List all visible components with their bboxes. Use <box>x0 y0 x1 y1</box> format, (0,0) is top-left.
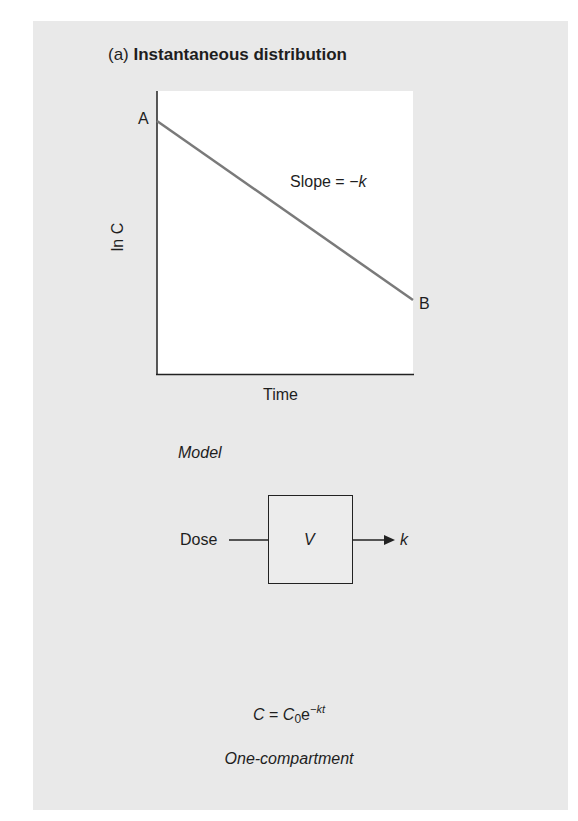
dose-label: Dose <box>180 531 217 549</box>
equation-equals: = <box>265 706 283 723</box>
point-b-label: B <box>419 295 430 313</box>
slope-annotation: Slope = −k <box>290 173 367 191</box>
slope-text: Slope = − <box>290 173 359 190</box>
model-heading: Model <box>178 444 222 462</box>
equation-c0: C <box>283 706 295 723</box>
decay-line <box>157 121 413 300</box>
slope-variable: k <box>359 173 367 190</box>
point-a-label: A <box>138 110 149 128</box>
volume-label: V <box>304 531 315 549</box>
plot-svg <box>0 0 578 821</box>
rate-constant-label: k <box>400 531 408 549</box>
x-axis-label: Time <box>263 386 298 404</box>
equation-exp-base: e <box>301 706 310 723</box>
model-caption: One-compartment <box>0 750 578 768</box>
equation-exponent: −kt <box>310 703 325 715</box>
equation: C = C0e−kt <box>0 703 578 726</box>
equation-lhs: C <box>253 706 265 723</box>
elimination-arrowhead-icon <box>384 535 395 545</box>
y-axis-label: ln C <box>109 223 127 251</box>
